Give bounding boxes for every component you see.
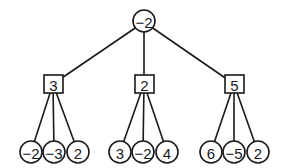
leaf-value: 3: [116, 145, 124, 162]
min-node-3-value: 5: [230, 77, 238, 94]
leaf-value: 2: [254, 145, 262, 162]
leaf-node: 3: [109, 141, 131, 163]
leaf-node: −3: [43, 141, 65, 163]
root-node: −2: [133, 10, 155, 32]
leaf-node: 2: [67, 141, 89, 163]
leaf-value: −2: [134, 145, 151, 162]
min-node-1: 3: [44, 75, 63, 94]
leaf-value: −5: [225, 145, 242, 162]
leaf-node: −2: [20, 141, 42, 163]
leaf-node: 4: [156, 141, 178, 163]
leaf-node: 6: [200, 141, 222, 163]
leaf-value: −2: [22, 145, 39, 162]
game-tree-diagram: −2 3 2 5 −2 −3 2 3 −2 4 6: [0, 0, 287, 168]
leaf-node: −5: [223, 141, 245, 163]
min-node-2-value: 2: [140, 77, 148, 94]
leaf-node: −2: [132, 141, 154, 163]
leaf-value: 2: [74, 145, 82, 162]
leaf-node: 2: [247, 141, 269, 163]
min-node-2: 2: [135, 75, 154, 94]
leaf-value: 6: [207, 145, 215, 162]
root-value: −2: [135, 14, 152, 31]
leaf-value: −3: [45, 145, 62, 162]
leaf-value: 4: [163, 145, 171, 162]
min-node-3: 5: [225, 75, 244, 94]
min-node-1-value: 3: [49, 77, 57, 94]
